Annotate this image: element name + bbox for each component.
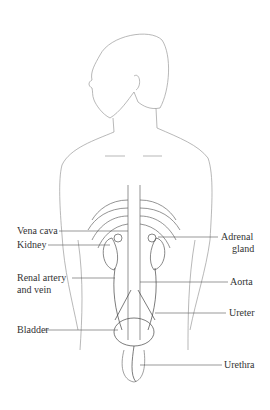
ear xyxy=(134,75,140,90)
label-kidney: Kidney xyxy=(17,239,46,250)
label-bladder: Bladder xyxy=(17,324,49,335)
label-gland: gland xyxy=(232,243,254,254)
label-and-vein: and vein xyxy=(17,284,51,295)
label-ureter: Ureter xyxy=(229,307,255,318)
label-renal-artery: Renal artery xyxy=(17,272,66,283)
head-outline xyxy=(89,34,169,118)
label-adrenal: Adrenal xyxy=(221,231,253,242)
label-aorta: Aorta xyxy=(230,276,253,287)
label-urethra: Urethra xyxy=(224,359,255,370)
bladder-shape xyxy=(114,318,154,346)
label-vena-cava: Vena cava xyxy=(17,225,58,236)
urinary-system-illustration xyxy=(0,0,270,410)
